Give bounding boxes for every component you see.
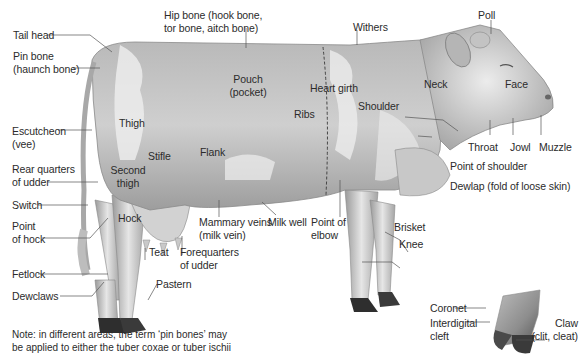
label-escutcheon: Escutcheon (vee) [12, 125, 66, 150]
label-milk-well: Milk well [268, 216, 307, 229]
label-muzzle: Muzzle [539, 141, 572, 154]
label-withers: Withers [353, 21, 388, 34]
label-point-of-elbow: Point of elbow [311, 216, 346, 241]
label-pouch: Pouch (pocket) [218, 73, 278, 98]
label-ribs: Ribs [294, 108, 315, 121]
label-poll: Poll [478, 9, 495, 22]
label-dewclaws: Dewclaws [12, 290, 58, 303]
label-pin-bone: Pin bone (haunch bone) [13, 50, 79, 75]
label-thigh: Thigh [119, 117, 145, 130]
label-teat: Teat [149, 246, 168, 259]
label-face: Face [505, 78, 528, 91]
label-tail-head: Tail head [13, 29, 54, 42]
label-throat: Throat [468, 141, 498, 154]
label-shoulder: Shoulder [358, 100, 399, 113]
label-brisket: Brisket [394, 221, 425, 234]
label-interdigital-cleft: Interdigital cleft [430, 317, 477, 342]
label-fetlock: Fetlock [12, 268, 45, 281]
label-stifle: Stifle [148, 150, 171, 163]
label-point-of-hock: Point of hock [12, 220, 45, 245]
cow-anatomy-diagram: Tail head Pin bone (haunch bone) Hip bon… [0, 0, 587, 362]
label-mammary-veins: Mammary veins (milk vein) [199, 216, 272, 241]
label-coronet: Coronet [430, 302, 467, 315]
label-switch: Switch [12, 199, 42, 212]
label-claw: Claw (clit, cleat) [520, 317, 578, 342]
label-jowl: Jowl [510, 141, 531, 154]
label-heart-girth: Heart girth [310, 82, 358, 95]
label-pastern: Pastern [156, 278, 192, 291]
label-rear-quarters: Rear quarters of udder [12, 163, 75, 188]
label-point-of-shoulder: Point of shoulder [450, 160, 527, 173]
label-hip-bone: Hip bone (hook bone, tor bone, aitch bon… [164, 9, 262, 34]
footnote: Note: in different areas, the term ‘pin … [12, 329, 231, 354]
label-second-thigh: Second thigh [108, 164, 148, 189]
label-knee: Knee [399, 238, 423, 251]
label-flank: Flank [200, 146, 225, 159]
label-dewlap: Dewlap (fold of loose skin) [450, 180, 570, 193]
label-forequarters: Forequarters of udder [180, 246, 239, 271]
label-neck: Neck [424, 78, 448, 91]
label-hock: Hock [118, 212, 142, 225]
